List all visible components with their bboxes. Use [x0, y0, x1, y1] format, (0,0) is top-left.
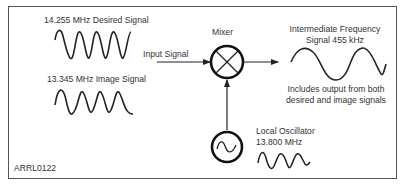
mixer-icon	[211, 46, 243, 78]
lo-signal-waveform	[258, 153, 310, 169]
if-label: Intermediate Frequency Signal 455 kHz	[280, 24, 390, 46]
if-note: Includes output from both desired and im…	[278, 84, 394, 106]
local-oscillator-label: Local Oscillator 13.800 MHz	[256, 126, 315, 148]
mixer-label: Mixer	[212, 27, 233, 38]
if-signal-waveform	[291, 48, 386, 80]
desired-signal-waveform	[55, 30, 131, 58]
image-signal-waveform	[55, 90, 133, 114]
figure-id: ARRL0122	[14, 163, 56, 174]
oscillator-icon	[212, 132, 242, 162]
input-signal-label: Input Signal	[143, 49, 188, 60]
image-signal-label: 13.345 MHz Image Signal	[47, 74, 146, 85]
desired-signal-label: 14.255 MHz Desired Signal	[44, 15, 149, 26]
